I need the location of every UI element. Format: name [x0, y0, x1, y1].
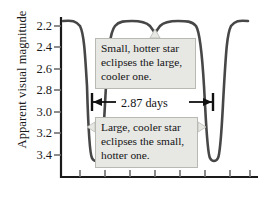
- primary-callout-line-3: hotter one.: [101, 149, 192, 163]
- primary-callout-line-1: Large, cooler star: [101, 121, 192, 135]
- y-tick-label-3-4: 3.4: [22, 149, 52, 162]
- light-curve-chart: Apparent visual magnitude 2.2 2.4 2.6 2.…: [0, 0, 265, 202]
- y-tick-label-3-2: 3.2: [22, 127, 52, 140]
- y-tick-label-2-8: 2.8: [22, 84, 52, 97]
- secondary-callout-line-2: eclipses the large,: [101, 56, 190, 70]
- period-label: 2.87 days: [118, 96, 171, 111]
- y-tick-label-3-0: 3.0: [22, 106, 52, 119]
- y-tick-label-2-6: 2.6: [22, 63, 52, 76]
- secondary-eclipse-callout: Small, hotter star eclipses the large, c…: [95, 38, 196, 89]
- y-tick-label-2-2: 2.2: [22, 20, 52, 33]
- secondary-callout-line-3: cooler one.: [101, 70, 190, 84]
- primary-callout-pointer-right: [198, 122, 206, 132]
- primary-eclipse-callout: Large, cooler star eclipses the small, h…: [95, 117, 198, 168]
- secondary-callout-line-1: Small, hotter star: [101, 42, 190, 56]
- secondary-callout-pointer: [150, 29, 160, 38]
- primary-callout-line-2: eclipses the small,: [101, 135, 192, 149]
- y-tick-label-2-4: 2.4: [22, 41, 52, 54]
